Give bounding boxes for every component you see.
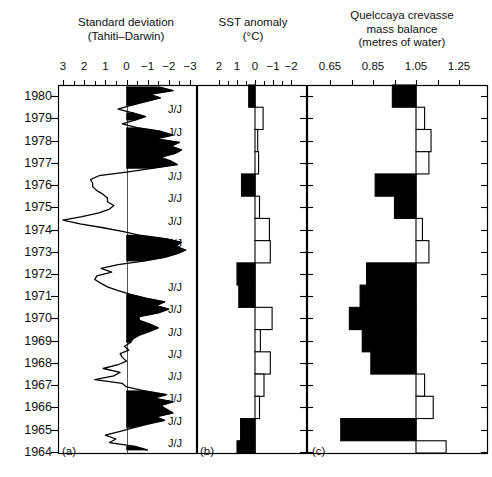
- panel-c-bar: [349, 307, 416, 329]
- panel-c-bar: [416, 441, 446, 453]
- panel-b-bar: [255, 196, 260, 218]
- panel-c-bar: [362, 330, 416, 352]
- panel-c-bar: [371, 352, 416, 374]
- panel-c-bar: [416, 129, 431, 151]
- panel-c-bar: [416, 241, 429, 263]
- panel-b-bar: [237, 441, 255, 453]
- panel-b-bar: [249, 85, 255, 107]
- panel-b-bar: [255, 330, 260, 352]
- panel-c-bar: [341, 419, 416, 441]
- plot-canvas: [0, 0, 492, 477]
- panel-c-bar: [395, 196, 417, 218]
- panel-b-bar: [255, 352, 270, 374]
- panel-b-bar: [255, 396, 260, 418]
- panel-c-bar: [375, 174, 416, 196]
- panel-a-negative-fill: [127, 87, 186, 450]
- panel-b-bar: [239, 285, 255, 307]
- panel-c-bar: [416, 396, 433, 418]
- panel-c-bar: [416, 218, 422, 240]
- panel-c-bar: [367, 263, 416, 285]
- panel-c-bar: [360, 285, 416, 307]
- panel-c-bar: [416, 152, 429, 174]
- panel-c-bar: [416, 107, 425, 129]
- panel-b-bar: [255, 107, 263, 129]
- panel-b-bar: [255, 129, 258, 151]
- panel-c-bar: [392, 85, 416, 107]
- panel-b-bar: [255, 241, 270, 263]
- panel-b-bar: [242, 174, 256, 196]
- panel-b-bar: [255, 374, 264, 396]
- panel-b-bar: [237, 263, 255, 285]
- panel-b-bar: [255, 218, 269, 240]
- panel-b-bar: [255, 307, 272, 329]
- panel-b-bar: [241, 419, 255, 441]
- panel-b-bar: [255, 152, 259, 174]
- panel-c-bar: [416, 374, 425, 396]
- figure-enso-proxy-panels: Standard deviation (Tahiti–Darwin) SST a…: [0, 0, 492, 477]
